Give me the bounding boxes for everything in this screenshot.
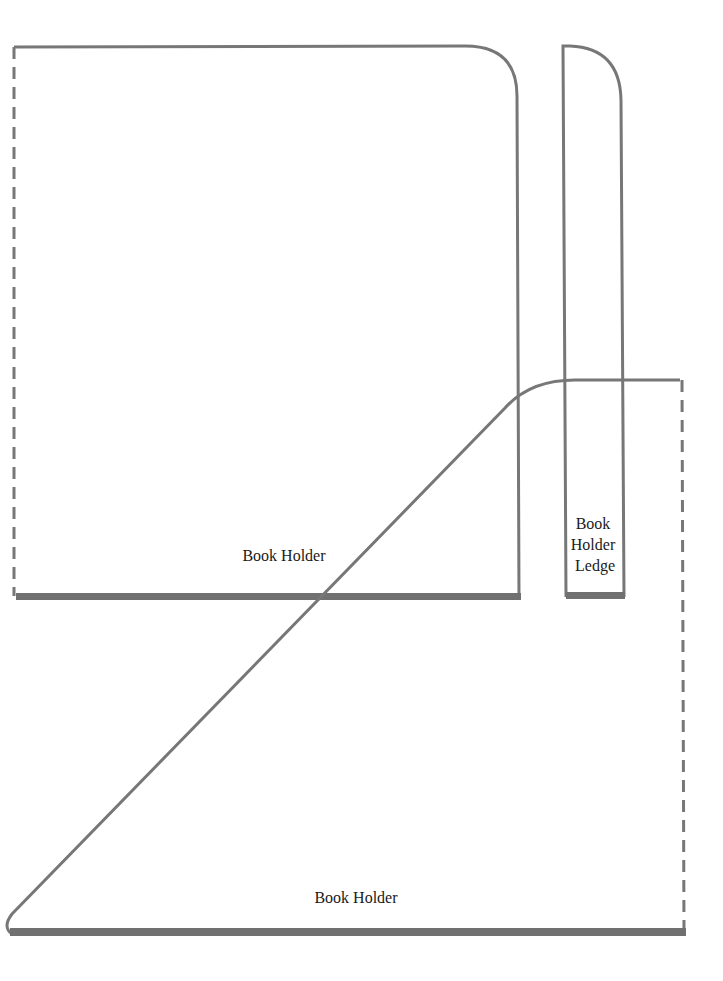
fold-line-right xyxy=(682,380,684,932)
label-book-holder-back: Book Holder xyxy=(242,547,326,564)
base-edge-back xyxy=(16,593,521,600)
label-ledge-line-3: Ledge xyxy=(575,557,615,575)
cut-outline-back xyxy=(14,46,519,597)
base-edge-side xyxy=(10,928,686,936)
piece-book-holder-back: Book Holder xyxy=(14,46,521,600)
cut-outline-side xyxy=(7,380,680,934)
label-book-holder-side: Book Holder xyxy=(314,889,398,906)
pattern-sheet: Book Holder Book Holder Ledge Book Holde… xyxy=(0,0,723,981)
piece-book-holder-ledge: Book Holder Ledge xyxy=(563,46,625,599)
label-ledge-line-1: Book xyxy=(576,515,611,532)
base-edge-ledge xyxy=(566,592,625,599)
piece-book-holder-side: Book Holder xyxy=(7,380,686,936)
label-ledge-line-2: Holder xyxy=(571,536,616,553)
label-book-holder-ledge: Book Holder Ledge xyxy=(571,515,619,575)
